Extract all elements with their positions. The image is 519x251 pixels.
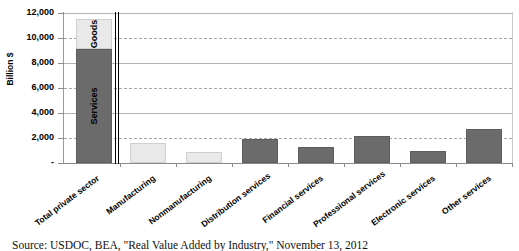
bar[interactable]: [298, 147, 334, 163]
y-axis-tick-label: -: [4, 157, 54, 167]
bar-segment-label: Services: [89, 87, 99, 124]
source-caption: Source: USDOC, BEA, "Real Value Added by…: [12, 239, 368, 251]
plot-area: ServicesGoods: [64, 13, 512, 163]
bar[interactable]: [242, 139, 278, 163]
chart-figure: Billion $ 12,00010,0008,0006,0004,0002,0…: [0, 0, 519, 251]
y-axis-tick-label: 8,000: [4, 57, 54, 67]
bar-segment[interactable]: [466, 129, 502, 163]
x-axis-tick: [232, 163, 233, 167]
bar[interactable]: ServicesGoods: [76, 19, 112, 163]
x-axis-tick: [176, 163, 177, 167]
y-axis-tick: [58, 163, 64, 164]
x-axis-tick: [456, 163, 457, 167]
y-axis-tick-label: 6,000: [4, 82, 54, 92]
bar[interactable]: [130, 143, 166, 163]
bar-segment[interactable]: [130, 143, 166, 163]
y-axis-tick-label: 4,000: [4, 107, 54, 117]
x-axis-tick: [512, 163, 513, 167]
bar-segment[interactable]: [410, 151, 446, 163]
x-axis-tick: [120, 163, 121, 167]
bar-segment[interactable]: [242, 139, 278, 163]
bar[interactable]: [410, 151, 446, 163]
axis-break-rule: [114, 12, 123, 164]
bar-segment[interactable]: [298, 147, 334, 163]
bar-segment[interactable]: Goods: [76, 19, 112, 48]
bar[interactable]: [466, 129, 502, 163]
bar-segment-label: Goods: [89, 20, 99, 49]
x-axis-tick: [288, 163, 289, 167]
bar[interactable]: [354, 136, 390, 163]
y-axis-tick-label: 10,000: [4, 32, 54, 42]
bar-segment[interactable]: [354, 136, 390, 163]
y-axis-tick-label: 2,000: [4, 132, 54, 142]
bar[interactable]: [186, 152, 222, 163]
bar-segment[interactable]: [186, 152, 222, 163]
x-axis-tick: [400, 163, 401, 167]
plot-right-edge: [512, 12, 513, 164]
y-axis-tick-label: 12,000: [4, 7, 54, 17]
bar-segment[interactable]: Services: [76, 49, 112, 163]
x-axis-tick: [344, 163, 345, 167]
